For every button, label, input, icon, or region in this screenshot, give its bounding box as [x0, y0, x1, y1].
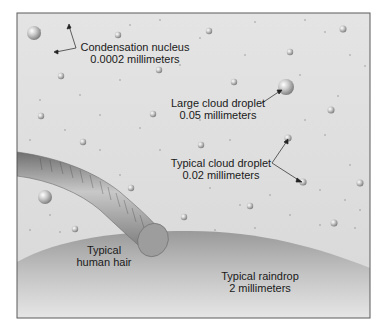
human-hair-name: Typical	[72, 244, 136, 256]
condensation-nucleus-label: Condensation nucleus 0.0002 millimeters	[80, 41, 190, 65]
condensation-nucleus-name: Condensation nucleus	[80, 41, 190, 53]
human-hair-label: Typical human hair	[72, 244, 136, 268]
typical-cloud-droplet-name: Typical cloud droplet	[167, 157, 275, 169]
large-cloud-droplet-name: Large cloud droplet	[168, 97, 268, 109]
human-hair-size: human hair	[72, 256, 136, 268]
raindrop-label: Typical raindrop 2 millimeters	[210, 270, 310, 294]
cloud-particle-size-diagram: Condensation nucleus 0.0002 millimeters …	[0, 0, 381, 329]
condensation-nucleus-size: 0.0002 millimeters	[80, 53, 190, 65]
typical-cloud-droplet-size: 0.02 millimeters	[167, 169, 275, 181]
large-cloud-droplet-size: 0.05 millimeters	[168, 109, 268, 121]
large-cloud-droplet-label: Large cloud droplet 0.05 millimeters	[168, 97, 268, 121]
typical-cloud-droplet-label: Typical cloud droplet 0.02 millimeters	[167, 157, 275, 181]
raindrop-name: Typical raindrop	[210, 270, 310, 282]
raindrop-size: 2 millimeters	[210, 282, 310, 294]
